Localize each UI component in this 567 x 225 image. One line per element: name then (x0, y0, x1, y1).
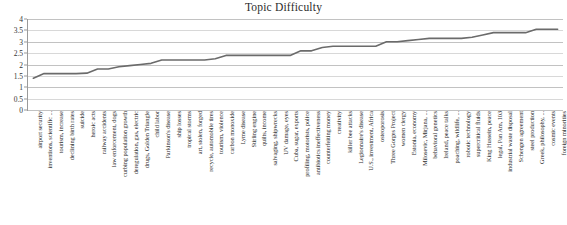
x-tick-label: tourism, increase (57, 111, 64, 153)
x-tick-label: poaching, wildlife, ... (453, 111, 460, 164)
x-tick-label: Stirling engine (250, 111, 257, 148)
x-tick-label: drugs, Golden Triangle (143, 111, 150, 168)
x-tick-label: U.S., investment, Africa (367, 111, 374, 171)
y-tick-mark (24, 19, 27, 20)
x-tick-label: Greek, philosophy, ... (538, 111, 545, 164)
x-tick-label: quilts, income (260, 111, 267, 146)
x-tick-label: Cuba, sugar, exports (292, 111, 299, 162)
plot-area (28, 19, 563, 110)
topic-difficulty-chart: Topic Difficulty 00.511.522.533.54 airpo… (0, 0, 567, 225)
y-tick-label: 0.5 (14, 94, 23, 103)
y-tick-label: 2.5 (14, 49, 23, 58)
x-axis-tick-labels: airport securityinventions, scientific .… (28, 111, 563, 225)
x-tick-label: heroic acts (89, 111, 96, 138)
x-tick-label: Legionnaire's disease (357, 111, 364, 164)
y-tick-label: 3.5 (14, 26, 23, 35)
x-tick-label: salvaging, shipwrecks (271, 111, 278, 166)
x-tick-label: airport security (36, 111, 43, 149)
x-tick-label: declining birth rates (68, 111, 75, 160)
x-tick-label: ship losses (175, 111, 182, 138)
y-tick-label: 1.5 (14, 71, 23, 80)
y-tick-label: 0 (19, 106, 23, 115)
x-tick-label: osteoporosis (378, 111, 385, 142)
x-tick-label: women clergy (399, 111, 406, 146)
y-axis-tick-labels: 00.511.522.533.54 (0, 19, 27, 110)
x-tick-label: creativity (335, 111, 342, 134)
x-tick-label: tropical storms (185, 111, 192, 148)
x-tick-label: Three Gorges Project (389, 111, 396, 164)
x-tick-label: behavioral genetics (431, 111, 438, 159)
series-line (28, 19, 563, 110)
x-tick-label: child labor (153, 111, 160, 138)
y-tick-label: 1 (19, 83, 23, 92)
x-tick-label: art, stolen, forged (196, 111, 203, 154)
y-tick-mark (24, 87, 27, 88)
y-tick-mark (24, 41, 27, 42)
x-tick-label: killer bee attacks (346, 111, 353, 153)
chart-title: Topic Difficulty (0, 1, 567, 13)
x-tick-label: recycle, automobile tires (207, 111, 214, 172)
x-tick-label: steel production (528, 111, 535, 151)
x-tick-label: cosmic events (549, 111, 556, 146)
y-tick-mark (24, 75, 27, 76)
x-tick-label: counterfeiting money (324, 111, 331, 164)
x-tick-label: carbon monoxide (228, 111, 235, 154)
x-tick-label: Ireland, peace talks (442, 111, 449, 159)
x-tick-label: Schengen agreement (517, 111, 524, 162)
x-tick-label: tourism, violence (217, 111, 224, 154)
x-tick-label: suicide (78, 111, 85, 129)
y-tick-mark (24, 53, 27, 54)
x-tick-label: Milosevic, Mirjana, ... (421, 111, 428, 166)
x-tick-label: profiling, motorists, police (303, 111, 310, 177)
y-tick-label: 2 (19, 60, 23, 69)
y-tick-mark (24, 110, 27, 111)
y-tick-mark (24, 64, 27, 65)
x-tick-label: robotic technology (464, 111, 471, 158)
x-tick-label: King Hussein, peace (485, 111, 492, 162)
y-tick-mark (24, 98, 27, 99)
x-tick-label: Estonia, economy (410, 111, 417, 155)
y-tick-label: 3 (19, 37, 23, 46)
x-tick-label: legal, Pan Am, 103 (496, 111, 503, 158)
x-tick-label: law enforcement, dogs (110, 111, 117, 167)
x-tick-label: industrial waste disposal (506, 111, 513, 172)
x-tick-label: inventions, scientific ... (46, 111, 53, 168)
y-tick-label: 4 (19, 15, 23, 24)
x-tick-label: antibiotics ineffectiveness (314, 111, 321, 175)
x-tick-label: deregulation, gas, electric (132, 111, 139, 174)
x-tick-label: curbing population growth (121, 111, 128, 177)
x-tick-label: Parkinson's disease (164, 111, 171, 159)
x-tick-label: foreign minorities (560, 111, 567, 155)
x-tick-label: supercritical fluids (474, 111, 481, 157)
y-tick-mark (24, 30, 27, 31)
x-tick-label: railway accidents (100, 111, 107, 154)
x-tick-label: UV damage, eyes (282, 111, 289, 155)
x-tick-label: Lyme disease (239, 111, 246, 145)
